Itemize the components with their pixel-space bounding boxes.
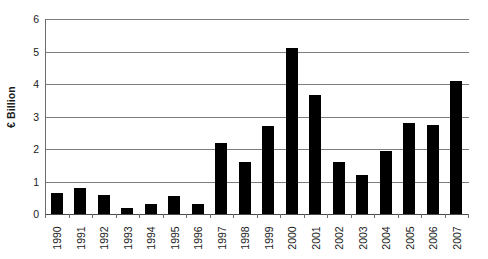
x-axis-tick-label-text: 1991	[74, 226, 86, 249]
x-axis-tick-label: 1993	[121, 219, 133, 259]
x-axis-tick-label-text: 1998	[239, 226, 251, 249]
bar	[51, 193, 63, 214]
x-axis-tick	[374, 214, 375, 218]
x-axis-tick	[186, 214, 187, 218]
x-axis-tick-label-text: 2002	[333, 226, 345, 249]
x-axis-tick-label-text: 1992	[98, 226, 110, 249]
x-axis-tick	[445, 214, 446, 218]
x-axis-tick-label-text: 1990	[51, 226, 63, 249]
x-axis-end-tick	[468, 214, 469, 218]
x-axis-tick	[257, 214, 258, 218]
x-axis-tick	[45, 214, 46, 218]
x-axis-tick	[92, 214, 93, 218]
x-axis-tick-label: 1994	[145, 219, 157, 259]
bar	[192, 204, 204, 214]
y-axis-title: € Billion	[0, 0, 22, 214]
x-axis-tick-label-text: 2007	[450, 226, 462, 249]
bar	[215, 143, 227, 215]
y-axis-tick-label: 0	[33, 209, 39, 220]
bar	[427, 125, 439, 214]
x-axis-tick	[233, 214, 234, 218]
bar	[145, 204, 157, 214]
x-axis-tick-label-text: 2006	[427, 226, 439, 249]
x-axis-tick-label-text: 2001	[309, 226, 321, 249]
x-axis-tick	[69, 214, 70, 218]
x-axis-tick-label: 2007	[450, 219, 462, 259]
x-axis-tick-label: 2002	[333, 219, 345, 259]
y-axis-tick-labels: 0123456	[22, 0, 43, 230]
bars-layer	[45, 19, 468, 214]
x-axis-tick-label: 1990	[51, 219, 63, 259]
x-axis-tick-label: 1998	[239, 219, 251, 259]
x-axis-tick-label-text: 1997	[215, 226, 227, 249]
bar	[262, 126, 274, 214]
x-axis-tick-label-text: 1993	[121, 226, 133, 249]
x-axis-tick-label-text: 1994	[145, 226, 157, 249]
y-axis-tick-label: 5	[33, 46, 39, 57]
x-axis-tick	[304, 214, 305, 218]
x-axis-tick-label-text: 2000	[286, 226, 298, 249]
y-axis-tick-label: 4	[33, 79, 39, 90]
x-axis-tick-label-text: 2004	[380, 226, 392, 249]
x-axis-tick-label: 1996	[192, 219, 204, 259]
bar	[380, 151, 392, 214]
y-axis-tick-label: 6	[33, 14, 39, 25]
bar	[74, 188, 86, 214]
x-axis-tick-label: 2000	[286, 219, 298, 259]
bar	[239, 162, 251, 214]
x-axis-tick-label: 1995	[168, 219, 180, 259]
x-axis-tick	[398, 214, 399, 218]
bar	[168, 196, 180, 214]
bar	[356, 175, 368, 214]
x-axis-tick-label: 1997	[215, 219, 227, 259]
x-axis-tick-label: 1991	[74, 219, 86, 259]
x-axis-tick-label: 2004	[380, 219, 392, 259]
x-axis-tick-label: 1992	[98, 219, 110, 259]
bar	[98, 195, 110, 215]
x-axis-tick-label-text: 2005	[403, 226, 415, 249]
x-axis-tick-label: 2001	[309, 219, 321, 259]
y-axis-tick-label: 2	[33, 144, 39, 155]
x-axis-tick-label-text: 2003	[356, 226, 368, 249]
x-axis-tick	[163, 214, 164, 218]
x-axis-tick-label: 2006	[427, 219, 439, 259]
y-axis-title-text: € Billion	[5, 86, 17, 128]
x-axis-tick	[280, 214, 281, 218]
x-axis-tick-label-text: 1996	[192, 226, 204, 249]
x-axis-tick-label-text: 1995	[168, 226, 180, 249]
x-axis-tick	[351, 214, 352, 218]
y-axis-tick-label: 1	[33, 176, 39, 187]
bar	[333, 162, 345, 214]
bar	[286, 48, 298, 214]
x-axis-tick-label: 1999	[262, 219, 274, 259]
y-axis-tick-label: 3	[33, 111, 39, 122]
x-axis-tick	[327, 214, 328, 218]
bar	[403, 123, 415, 214]
x-axis-tick-label: 2005	[403, 219, 415, 259]
bar	[450, 81, 462, 214]
x-axis-tick	[116, 214, 117, 218]
x-axis-tick	[139, 214, 140, 218]
x-axis-tick-labels: 1990199119921993199419951996199719981999…	[45, 219, 468, 259]
x-axis-tick	[421, 214, 422, 218]
bar	[309, 95, 321, 214]
x-axis-tick-label-text: 1999	[262, 226, 274, 249]
x-axis-tick-label: 2003	[356, 219, 368, 259]
x-axis-tick	[210, 214, 211, 218]
bar-chart: € Billion 0123456 1990199119921993199419…	[0, 0, 488, 259]
